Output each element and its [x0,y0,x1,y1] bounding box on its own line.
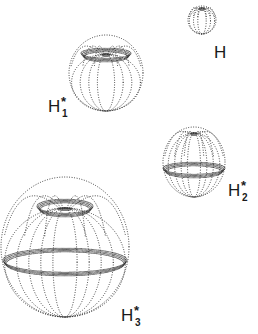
meridian [41,208,89,317]
label-h-main: H [214,43,226,62]
meridian [17,208,114,317]
label-h2-star: H * 2 [228,182,240,199]
label-h1-main: H [48,97,60,116]
meridian [72,54,141,111]
label-h3-star: H * 3 [121,307,133,324]
label-h1-star: H * 1 [48,98,60,115]
cap-arc [184,131,192,156]
shapes-layer [1,6,225,317]
label-h1-sup: * [61,95,66,108]
label-h2-sup: * [241,179,246,192]
sphere-h [188,6,216,34]
sphere-h2 [163,127,225,197]
pole-cluster [57,207,72,211]
pole-cluster [190,132,197,136]
label-h3-sup: * [134,304,139,317]
cap-arc [4,196,59,237]
label-h: H [214,44,226,61]
label-h1-sub: 1 [62,109,68,119]
dense-band [166,166,222,178]
pole-cluster [199,7,205,11]
meridian [89,54,123,111]
pole-cluster [102,53,111,57]
meridian [80,54,132,111]
sphere-h3 [1,177,129,317]
label-h2-main: H [228,181,240,200]
dense-band [4,249,126,273]
dense-band [165,165,223,177]
label-h3-sub: 3 [135,318,141,328]
meridian [53,208,77,317]
meridian [5,208,126,317]
meridian [29,208,101,317]
dense-band [164,163,224,175]
sphere-h1 [69,35,143,111]
label-h2-sub: 2 [242,193,248,203]
outline [1,177,129,317]
dense-band [5,251,125,275]
meridian [194,8,211,34]
meridian [97,54,114,111]
outline [69,35,143,111]
label-h3-main: H [121,306,133,325]
meridian [198,8,206,34]
